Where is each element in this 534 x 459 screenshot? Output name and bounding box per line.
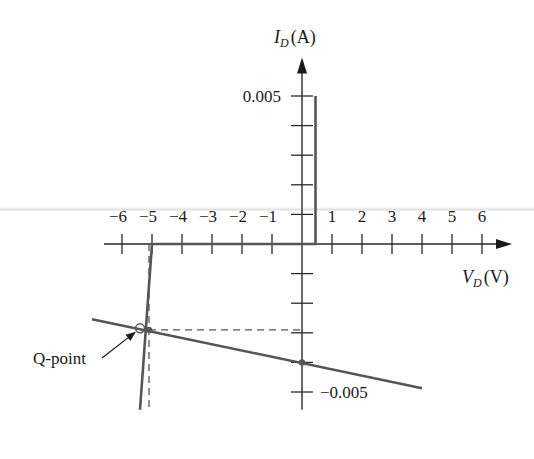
q-point-annotation: Q-point bbox=[33, 332, 135, 368]
load-line-y-intercept bbox=[299, 359, 305, 365]
x-axis-label: VD(V) bbox=[462, 267, 509, 290]
q-point-arrow bbox=[102, 332, 135, 358]
x-tick-label: −2 bbox=[229, 207, 247, 226]
x-tick-label: −3 bbox=[199, 207, 217, 226]
q-point-projection bbox=[146, 327, 152, 333]
y-tick-label: 0.005 bbox=[243, 87, 281, 106]
x-tick-label: −1 bbox=[259, 207, 277, 226]
axes-group bbox=[104, 58, 512, 410]
x-tick-label: 3 bbox=[388, 207, 397, 226]
x-tick-label: −4 bbox=[169, 207, 188, 226]
x-tick-label: 6 bbox=[478, 207, 487, 226]
series-group bbox=[92, 96, 422, 410]
x-tick-label: 4 bbox=[418, 207, 427, 226]
x-tick-label: −5 bbox=[139, 207, 157, 226]
x-tick-label: 5 bbox=[448, 207, 457, 226]
y-axis-label: ID(A) bbox=[273, 27, 316, 50]
q-point-label: Q-point bbox=[33, 349, 86, 368]
x-tick-label: 1 bbox=[328, 207, 337, 226]
y-axis-label-unit: (A) bbox=[291, 27, 316, 48]
x-axis-label-unit: (V) bbox=[484, 267, 509, 288]
x-tick-label: 2 bbox=[358, 207, 367, 226]
y-axis-arrowhead bbox=[297, 58, 307, 74]
diode-iv-chart: −6−5−4−3−2−1123456 0.005−0.005 ID(A) VD(… bbox=[0, 0, 534, 459]
x-tick-label: −6 bbox=[109, 207, 127, 226]
y-tick-label: −0.005 bbox=[320, 383, 368, 402]
diode-curve bbox=[140, 96, 316, 410]
guides-group bbox=[149, 244, 302, 410]
x-axis-arrowhead bbox=[496, 239, 512, 249]
x-axis-label-sub: D bbox=[472, 276, 482, 290]
y-axis-label-sub: D bbox=[279, 36, 289, 50]
